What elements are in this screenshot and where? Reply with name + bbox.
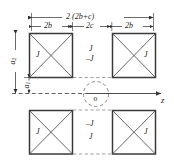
current-label-center-bottom-lower: J — [89, 133, 93, 141]
bottom-right-conductor — [113, 111, 156, 155]
dimension-label-a1-base: a — [22, 85, 31, 89]
conductor-cross-section-figure: 2 (2b+c) 2b 2c 2b a2 a1 J J J J J –J –J … — [0, 0, 174, 165]
origin-label: o — [94, 95, 98, 103]
dimension-label-a1-subscript: 1 — [25, 82, 31, 85]
dimension-label-a2-base: a — [8, 61, 17, 65]
current-label-top-right: J — [144, 51, 148, 59]
dimension-label-right-block: 2b — [125, 22, 133, 30]
current-label-center-bottom-upper: –J — [86, 120, 94, 128]
current-label-bottom-left: J — [36, 128, 40, 136]
dimension-label-total-width: 2 (2b+c) — [66, 13, 94, 21]
dimension-label-a2-subscript: 2 — [11, 58, 17, 61]
dimension-label-a1: a1 — [23, 77, 31, 93]
current-label-top-left: J — [36, 51, 40, 59]
dimension-label-center: 2c — [86, 22, 94, 30]
top-right-conductor — [113, 34, 156, 78]
current-label-bottom-right: J — [144, 128, 148, 136]
guide-lines — [73, 78, 112, 155]
current-label-center-top-upper: J — [89, 45, 93, 53]
dimension-label-a2: a2 — [9, 52, 17, 70]
z-axis-label: z — [161, 96, 164, 105]
dimension-label-left-block: 2b — [44, 22, 52, 30]
current-label-center-top-lower: –J — [86, 55, 94, 63]
